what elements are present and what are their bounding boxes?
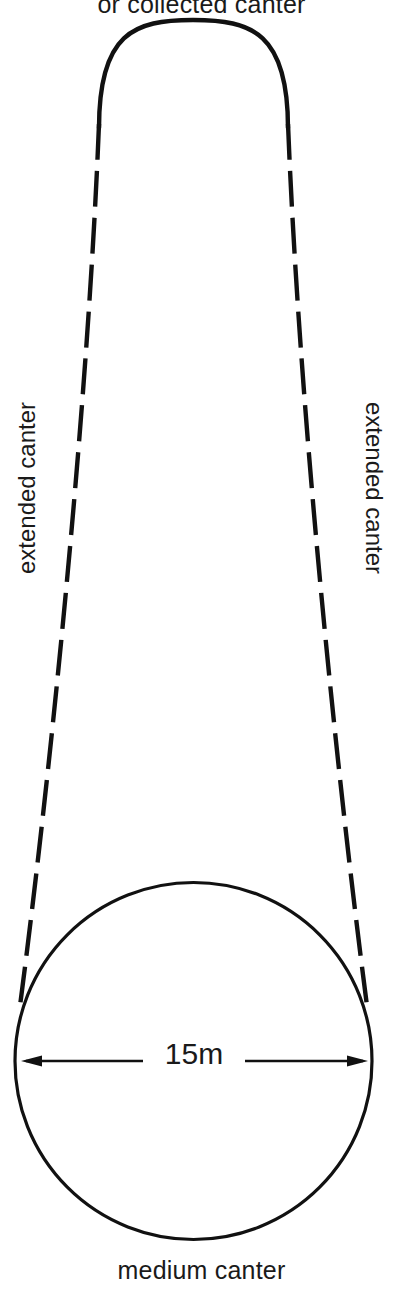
dimension-label-15m: 15m <box>143 1037 245 1070</box>
dimension-arrowhead-right <box>347 1056 368 1067</box>
extended-canter-label-right: extended canter <box>362 388 386 588</box>
dimension-arrowhead-left <box>21 1056 42 1067</box>
canter-figure-svg <box>0 0 403 1303</box>
extended-canter-line-right <box>288 124 367 1006</box>
diagram-canvas: or collected canter extended canter exte… <box>0 0 403 1303</box>
collected-canter-label: or collected canter <box>0 0 403 17</box>
extended-canter-label-left: extended canter <box>15 388 39 588</box>
collected-canter-arc <box>99 20 288 128</box>
medium-canter-label: medium canter <box>0 1258 403 1283</box>
